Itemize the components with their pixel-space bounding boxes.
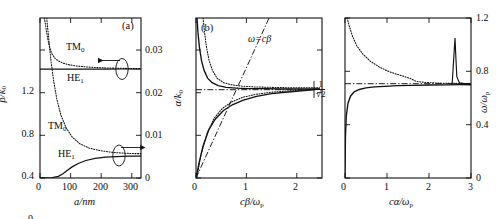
panel-c-xtick-1: 1 [384,181,389,192]
alpha-ytick-0-01: 0.01 [145,129,163,140]
label-tm0-upper: TM0 [66,41,85,54]
panel-a-xtick-300: 300 [123,181,138,192]
label-he1-lower: HE1 [58,148,75,161]
label-he1-upper: HE1 [67,72,84,85]
panel-b-xtick-0: 0 [192,181,197,192]
panel-c-ytick-0-4: 0.4 [476,119,489,130]
panel-c-ytick-1-2: 1.2 [476,12,489,23]
figure-root: 1.2 0.8 0.4 0 β/k0 0 100 200 300 a/nm (a… [0,0,501,219]
asymptote-fraction-label: 1 √2 [316,80,325,99]
panel-a-yaxis-title: β/k0 [0,86,8,102]
fraction-numerator: 1 [316,80,325,89]
panel-a-label: (a) [122,20,134,31]
panel-c-ytick-0-8: 0.8 [476,65,489,76]
panel-a-xtick-100: 100 [62,181,77,192]
panel-c-xtick-0: 0 [341,181,346,192]
panel-c-ytick-0: 0 [476,172,481,183]
alpha-yaxis-title: α/k0 [172,90,185,107]
panel-c-yaxis-title: ω/ωp [478,92,491,113]
panel-a-yaxis-sub: 0 [0,86,8,90]
panel-a-xtick-200: 200 [93,181,108,192]
light-line-annotation: ω=cβ [248,33,271,44]
panel-a-group [40,18,141,178]
panel-b-xtick-1: 1 [243,181,248,192]
panel-c-frame [345,18,471,178]
panel-b-xaxis-title: cβ/ωp [240,196,264,209]
panel-c-xtick-3: 3 [468,181,473,192]
panel-a-frame [40,18,141,178]
label-tm0-lower: TM0 [48,120,67,133]
alpha-ytick-0-02: 0.02 [145,87,163,98]
panel-b-xtick-2: 2 [293,181,298,192]
panel-a-xtick-0: 0 [36,181,41,192]
alpha-ytick-0: 0 [145,172,150,183]
panel-c-xaxis-title: cα/ωp [389,196,413,209]
panel-b-label: (b) [201,22,213,33]
panel-a-xaxis-title: a/nm [74,196,95,207]
fraction-denominator: √2 [316,89,325,99]
alpha-ytick-0-03: 0.03 [145,44,163,55]
panel-c-xtick-2: 2 [426,181,431,192]
panel-c-group [345,18,471,178]
